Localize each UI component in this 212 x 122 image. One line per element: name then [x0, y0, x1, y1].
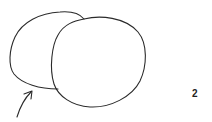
arrow-shaft: [17, 92, 31, 117]
figure-label: 2: [192, 88, 198, 99]
diagram-canvas: [0, 0, 212, 122]
front-circle: [51, 17, 145, 107]
back-circle: [10, 12, 84, 89]
